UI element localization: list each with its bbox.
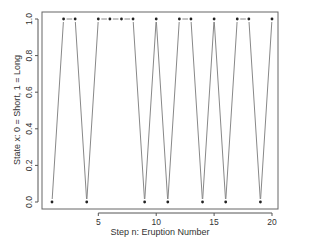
data-point [74, 18, 77, 21]
y-tick-label: 0.2 [24, 159, 34, 171]
data-point [259, 201, 262, 204]
series-line-segment [261, 22, 272, 199]
x-tick-label: 5 [96, 217, 101, 227]
data-point [143, 201, 146, 204]
x-tick-label: 15 [209, 217, 219, 227]
series-line-segment [133, 22, 144, 199]
series-line-segment [226, 22, 237, 199]
x-tick-label: 10 [151, 217, 161, 227]
data-point [190, 18, 193, 21]
x-axis-label: Step n: Eruption Number [110, 227, 209, 237]
y-tick-label: 0.4 [24, 123, 34, 135]
y-axis: 0.00.20.40.60.81.0 [24, 13, 38, 208]
plot-frame [42, 12, 278, 209]
y-tick-label: 1.0 [24, 13, 34, 25]
chart: 5101520 0.00.20.40.60.81.0 Step n: Erupt… [0, 0, 332, 241]
series-line-segment [156, 22, 167, 199]
data-point [62, 18, 65, 21]
series-line-segment [168, 22, 179, 199]
data-point [236, 18, 239, 21]
data-point [201, 201, 204, 204]
y-tick-label: 0.6 [24, 86, 34, 98]
y-tick-label: 0.8 [24, 49, 34, 61]
y-tick-label: 0.0 [24, 196, 34, 208]
data-point [108, 18, 111, 21]
series-line-segment [52, 22, 63, 199]
data-point [178, 18, 181, 21]
series-line-segment [203, 22, 214, 199]
data-point [166, 201, 169, 204]
series-line-segment [214, 22, 225, 199]
data-point [51, 201, 54, 204]
series-line-segment [145, 22, 156, 199]
data-point [120, 18, 123, 21]
data-point [271, 18, 274, 21]
series-line-segment [249, 22, 260, 199]
data-point [97, 18, 100, 21]
data-point [247, 18, 250, 21]
data-point [132, 18, 135, 21]
series-line-segment [75, 22, 86, 199]
x-tick-label: 20 [267, 217, 277, 227]
data-point [155, 18, 158, 21]
data-point [224, 201, 227, 204]
y-axis-label: State x: 0 = Short, 1 = Long [12, 55, 22, 165]
data-point [213, 18, 216, 21]
data-series [51, 18, 274, 204]
series-line-segment [87, 22, 98, 199]
series-line-segment [191, 22, 202, 199]
data-point [85, 201, 88, 204]
x-axis: 5101520 [96, 213, 277, 227]
